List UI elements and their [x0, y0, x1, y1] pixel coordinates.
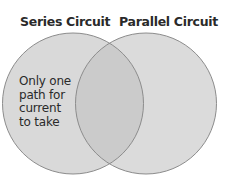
parallel-circuit-title: Parallel Circuit	[119, 14, 218, 29]
note-line: path for	[19, 89, 83, 103]
series-circuit-title: Series Circuit	[20, 14, 110, 29]
venn-diagram: Series Circuit Parallel Circuit Only one…	[0, 0, 230, 193]
note-line: Only one	[19, 75, 83, 89]
series-unique-note: Only one path for current to take	[19, 75, 83, 129]
note-line: current	[19, 102, 83, 116]
note-line: to take	[19, 116, 83, 130]
